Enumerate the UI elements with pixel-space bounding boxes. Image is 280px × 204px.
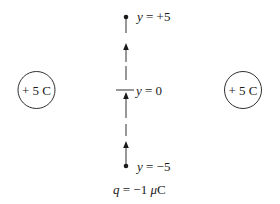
top-point-label: y = +5 [135, 9, 170, 24]
arrow-up-icon [123, 92, 129, 99]
top-point-dot [124, 15, 129, 20]
test-charge-label: q = −1 μC [113, 182, 166, 197]
right-charge: + 5 C [225, 72, 262, 109]
bottom-point-label: y = −5 [135, 159, 170, 174]
left-charge-label: + 5 C [22, 83, 51, 98]
origin-label: y = 0 [134, 83, 162, 98]
arrow-up-icon [123, 141, 129, 148]
bottom-point-dot [124, 164, 129, 169]
charge-diagram: + 5 C + 5 C y = +5 y = 0 y = −5 q = −1 μ… [0, 0, 280, 204]
left-charge: + 5 C [18, 72, 55, 109]
arrow-up-icon [123, 43, 129, 50]
right-charge-label: + 5 C [228, 83, 257, 98]
